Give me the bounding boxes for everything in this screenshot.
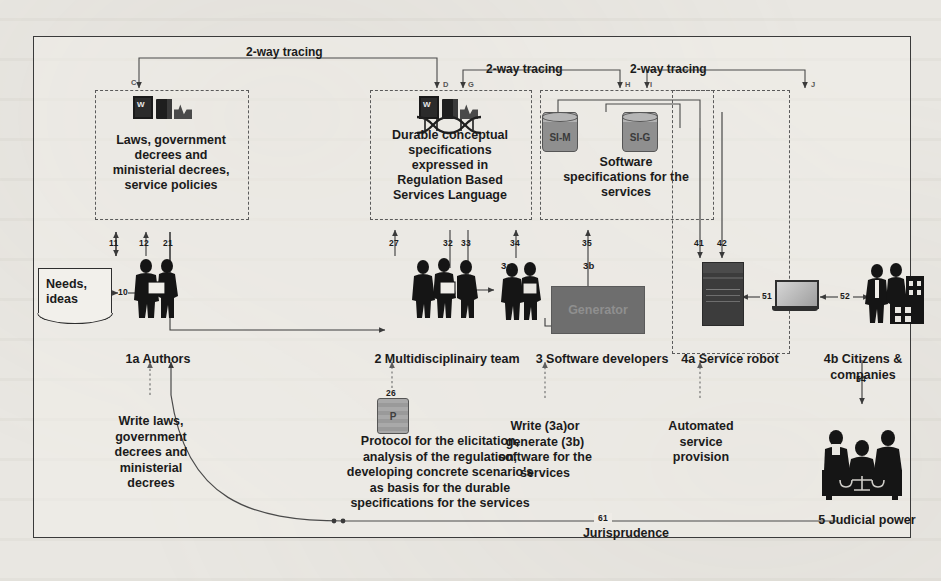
flow-number-51: 51 [762, 291, 772, 301]
branch-label-3a: 3a [501, 260, 512, 271]
marker-letter-D: D [443, 80, 448, 89]
durable-specs-label: Durable conceptual specifications expres… [366, 128, 534, 203]
actor-label-robot: 4a Service robot [668, 352, 792, 368]
people-buildings-icon [864, 262, 926, 324]
branch-label-3b: 3b [583, 260, 595, 271]
laws-artifact-label: Laws, government decrees and ministerial… [95, 133, 247, 193]
flow-number-26: 26 [386, 388, 396, 398]
laws-icons [133, 96, 192, 119]
si-g-cylinder-icon: SI-G [622, 112, 658, 152]
annotation-jurisprudence: Jurisprudence [566, 526, 686, 542]
actor-label-developers: 3 Software developers [524, 352, 680, 368]
flow-number-11: 11 [109, 238, 118, 248]
marker-letter-C: C [131, 78, 136, 87]
flow-number-33: 33 [461, 238, 471, 248]
marker-letter-H: H [625, 80, 630, 89]
server-tower-icon [702, 262, 744, 326]
generator-box: Generator [551, 286, 645, 334]
flow-number-27: 27 [389, 238, 399, 248]
flow-number-35: 35 [582, 238, 592, 248]
judges-with-scales-icon [818, 428, 906, 500]
annotation-write-laws: Write laws, government decrees and minis… [95, 414, 207, 492]
protocol-cylinder-icon: P [377, 398, 409, 434]
flow-number-42: 42 [717, 238, 727, 248]
si-m-cylinder-icon: SI-M [542, 112, 578, 152]
flow-number-41: 41 [694, 238, 704, 248]
actor-label-multidisciplinary: 2 Multidisciplinairy team [367, 352, 527, 368]
black-book-icon [156, 99, 171, 119]
flow-number-61: 61 [594, 513, 612, 523]
actor-label-judicial: 5 Judicial power [812, 513, 922, 529]
actor-label-citizens: 4b Citizens & companies [792, 352, 934, 383]
laptop-icon [772, 280, 818, 314]
marker-letter-G: G [468, 80, 474, 89]
flow-number-34: 34 [510, 238, 520, 248]
flow-number-52: 52 [840, 291, 850, 301]
flow-number-10: 10 [118, 287, 128, 297]
three-people-icon [410, 258, 482, 320]
flow-number-32: 32 [443, 238, 453, 248]
two-people-icon [128, 258, 186, 320]
tracing-label-2: 2-way tracing [486, 62, 563, 76]
word-document-icon [133, 96, 153, 119]
needs-ideas-note: Needs, ideas [38, 268, 112, 316]
flow-number-21: 21 [163, 238, 173, 248]
tracing-label-1: 2-way tracing [246, 45, 323, 59]
annotation-automated-service: Automated service provision [646, 419, 756, 466]
xml-file-icon [174, 103, 192, 119]
marker-letter-I: I [650, 80, 652, 89]
actor-label-authors: 1a Authors [105, 352, 211, 368]
annotation-write-or-generate: Write (3a)or generate (3b) software for … [483, 419, 607, 481]
marker-letter-J: J [811, 80, 815, 89]
flow-number-12: 12 [139, 238, 149, 248]
tracing-label-3: 2-way tracing [630, 62, 707, 76]
